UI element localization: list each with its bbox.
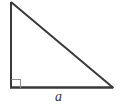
triangle-hypotenuse	[11, 2, 114, 88]
side-label-base: a	[0, 90, 117, 104]
right-triangle-figure: a	[0, 0, 121, 108]
